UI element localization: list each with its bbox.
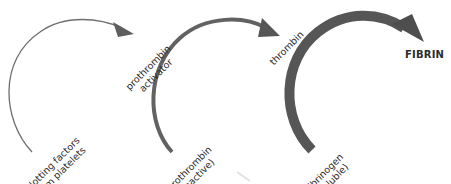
arrowhead-stage-1-icon <box>113 22 134 37</box>
faint-stroke-decoration <box>237 172 250 181</box>
arrow-stage-1 <box>9 20 134 153</box>
arc-stage-1 <box>9 20 122 153</box>
arc-stage-3 <box>289 16 404 150</box>
clotting-cascade-diagram: clotting factors from platelets prothrom… <box>0 0 451 184</box>
label-fibrin: FIBRIN <box>405 49 444 60</box>
arrowhead-stage-2-icon <box>258 18 280 37</box>
arrow-stage-3 <box>289 14 424 150</box>
arrow-stage-2 <box>153 18 280 152</box>
arc-stage-2 <box>153 20 266 152</box>
